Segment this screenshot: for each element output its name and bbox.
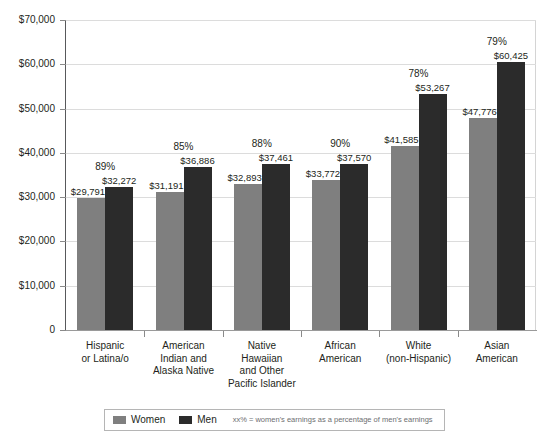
- y-axis-tick-label: $20,000: [0, 236, 55, 246]
- bar-men: [105, 187, 133, 330]
- x-axis-category-label: AsianAmerican: [454, 340, 540, 365]
- bar-men: [419, 94, 447, 330]
- value-label-men: $53,267: [403, 83, 463, 93]
- category-label-line: American: [140, 340, 226, 353]
- legend-swatch-men-icon: [179, 416, 192, 424]
- category-label-line: American: [454, 353, 540, 366]
- y-axis-tick-label: 0: [0, 325, 55, 335]
- ratio-label: 88%: [232, 139, 292, 149]
- category-label-line: (non-Hispanic): [375, 353, 461, 366]
- y-axis-tick: [60, 20, 66, 21]
- bar-women: [469, 118, 497, 330]
- bar-women: [234, 184, 262, 330]
- value-label-men: $37,461: [246, 153, 306, 163]
- y-axis-tick: [60, 197, 66, 198]
- bar-women: [312, 180, 340, 330]
- legend-label-women: Women: [131, 415, 165, 425]
- y-axis-tick-label: $30,000: [0, 192, 55, 202]
- bar-women: [391, 146, 419, 330]
- chart-legend: Women Men xx% = women's earnings as a pe…: [104, 409, 445, 431]
- y-axis-tick: [60, 109, 66, 110]
- bar-men: [262, 164, 290, 330]
- legend-item-men: Men: [179, 415, 216, 425]
- value-label-women: $33,772: [294, 169, 340, 179]
- ratio-label: 90%: [310, 139, 370, 149]
- ratio-label: 78%: [389, 69, 449, 79]
- x-axis-category-label: AfricanAmerican: [297, 340, 383, 365]
- category-label-line: White: [375, 340, 461, 353]
- legend-item-women: Women: [113, 415, 165, 425]
- category-label-line: Indian and: [140, 353, 226, 366]
- value-label-men: $36,886: [168, 156, 228, 166]
- value-label-men: $37,570: [324, 153, 384, 163]
- clipped-title-fragment: [120, 0, 420, 8]
- category-label-line: Hawaiian: [219, 353, 305, 366]
- bar-men: [497, 62, 525, 330]
- y-axis-tick-label: $50,000: [0, 104, 55, 114]
- y-axis-tick: [60, 64, 66, 65]
- category-label-line: Alaska Native: [140, 365, 226, 378]
- gridline: [66, 286, 536, 287]
- category-label-line: African: [297, 340, 383, 353]
- y-axis-tick-label: $10,000: [0, 281, 55, 291]
- x-axis-category-label: NativeHawaiianand OtherPacific Islander: [219, 340, 305, 390]
- gridline: [66, 241, 536, 242]
- x-axis-tick: [223, 331, 224, 337]
- earnings-bar-chart: $70,000$60,000$50,000$40,000$30,000$20,0…: [0, 0, 549, 444]
- category-label-line: Pacific Islander: [219, 378, 305, 391]
- bar-women: [156, 192, 184, 330]
- value-label-women: $32,893: [216, 173, 262, 183]
- value-label-women: $41,585: [373, 135, 419, 145]
- legend-label-men: Men: [197, 415, 216, 425]
- bar-men: [340, 164, 368, 330]
- category-label-line: Asian: [454, 340, 540, 353]
- category-label-line: or Latina/o: [62, 353, 148, 366]
- x-axis-tick: [458, 331, 459, 337]
- ratio-label: 79%: [467, 37, 527, 47]
- ratio-label: 89%: [75, 162, 135, 172]
- y-axis-tick: [60, 330, 66, 331]
- bar-men: [184, 167, 212, 330]
- gridline: [66, 197, 536, 198]
- x-axis-tick: [301, 331, 302, 337]
- value-label-women: $29,791: [59, 187, 105, 197]
- gridline: [66, 20, 536, 21]
- x-axis-category-label: White(non-Hispanic): [375, 340, 461, 365]
- y-axis-tick-label: $70,000: [0, 15, 55, 25]
- category-label-line: Hispanic: [62, 340, 148, 353]
- y-axis-tick-label: $40,000: [0, 148, 55, 158]
- category-label-line: Native: [219, 340, 305, 353]
- legend-note: xx% = women's earnings as a percentage o…: [233, 416, 433, 424]
- value-label-women: $47,776: [451, 107, 497, 117]
- x-axis-category-label: Hispanicor Latina/o: [62, 340, 148, 365]
- x-axis-category-label: AmericanIndian andAlaska Native: [140, 340, 226, 378]
- category-label-line: and Other: [219, 365, 305, 378]
- y-axis-tick: [60, 241, 66, 242]
- category-label-line: American: [297, 353, 383, 366]
- y-axis-tick: [60, 153, 66, 154]
- y-axis-tick: [60, 286, 66, 287]
- value-label-women: $31,191: [138, 181, 184, 191]
- y-axis-line: [65, 20, 66, 331]
- x-axis-tick: [144, 331, 145, 337]
- bar-women: [77, 198, 105, 330]
- gridline: [66, 64, 536, 65]
- value-label-men: $60,425: [481, 51, 541, 61]
- x-axis-tick: [379, 331, 380, 337]
- y-axis-tick-label: $60,000: [0, 59, 55, 69]
- ratio-label: 85%: [154, 142, 214, 152]
- legend-swatch-women-icon: [113, 416, 126, 424]
